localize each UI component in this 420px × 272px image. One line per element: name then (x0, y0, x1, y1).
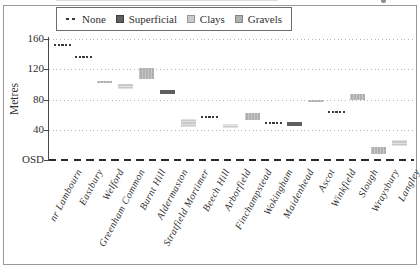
marker-arborfield (223, 124, 238, 128)
y-axis-tick (44, 69, 48, 70)
y-axis-tick-label: 160 (10, 32, 44, 45)
osd-datum-line (49, 159, 414, 161)
marker-maidenhead (287, 122, 302, 127)
marker-wokingham (265, 122, 282, 124)
y-axis-tick-label: 80 (10, 93, 44, 106)
marker-slough (350, 94, 365, 99)
marker-welford (97, 81, 112, 83)
y-axis-tick-label: 120 (10, 62, 44, 75)
scan-artifact (56, 0, 278, 1)
y-axis-tick (44, 130, 48, 131)
y-axis-tick-label: 40 (10, 123, 44, 136)
gridline-160 (49, 39, 414, 40)
marker-beech-hill (201, 116, 218, 118)
marker-ascot (308, 100, 323, 102)
marker-eastbury (75, 56, 92, 58)
marker-nr-lambourn (54, 44, 71, 46)
marker-stratfield-mortimer (181, 119, 196, 127)
legend-item-clays: Clays (187, 13, 225, 25)
gridline-80 (49, 100, 414, 101)
clays-swatch-icon (187, 15, 195, 23)
legend-item-superficial: Superficial (116, 13, 177, 25)
figure: None Superficial Clays Gravels Metres OS… (0, 0, 420, 272)
y-axis-tick-label: OSD (10, 153, 44, 166)
marker-greenham-common (118, 84, 133, 89)
y-axis-tick (44, 100, 48, 101)
legend-label: Clays (200, 13, 225, 25)
marker-langley (392, 140, 407, 146)
marker-aldermaston (160, 90, 175, 95)
legend-label: Gravels (248, 13, 282, 25)
scan-artifact (381, 0, 386, 3)
gridline-120 (49, 69, 414, 70)
legend-item-none: None (66, 13, 106, 25)
legend-label: Superficial (129, 13, 177, 25)
gridline-40 (49, 130, 414, 131)
legend: None Superficial Clays Gravels (56, 7, 292, 31)
marker-burnt-hill (139, 68, 154, 79)
y-axis-tick (44, 160, 48, 161)
legend-item-gravels: Gravels (235, 13, 282, 25)
legend-label: None (82, 13, 106, 25)
marker-winkfield (328, 111, 345, 113)
y-axis-tick (44, 39, 48, 40)
dash-line-icon (66, 18, 77, 20)
marker-finchampstead (245, 113, 260, 120)
gravels-swatch-icon (235, 15, 243, 23)
superficial-swatch-icon (116, 15, 124, 23)
marker-wraysbury (371, 147, 386, 154)
